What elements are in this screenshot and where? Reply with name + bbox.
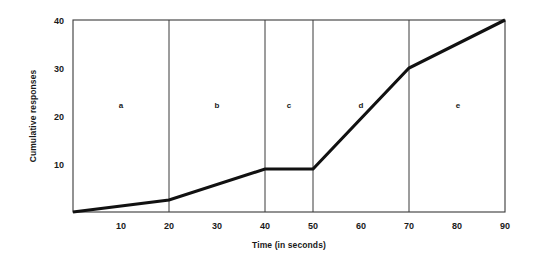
y-tick-label-40: 40 [54,16,64,26]
x-tick-label-70: 70 [404,221,414,231]
x-tick-label-80: 80 [452,221,462,231]
y-axis-title: Cumulative responses [28,69,38,162]
chart-canvas: 40 30 20 10 10 20 30 40 50 60 70 80 90 a… [0,0,539,259]
plot-frame [73,20,505,212]
x-tick-label-50: 50 [308,221,318,231]
region-label-e: e [456,101,461,110]
y-tick-label-30: 30 [54,64,64,74]
y-tick-label-20: 20 [54,112,64,122]
cumulative-response-chart: 40 30 20 10 10 20 30 40 50 60 70 80 90 a… [0,0,539,259]
x-tick-label-20: 20 [164,221,174,231]
cumulative-response-curve [73,20,505,212]
region-label-d: d [359,101,364,110]
y-tick-label-10: 10 [54,160,64,170]
region-label-a: a [119,101,124,110]
x-tick-label-60: 60 [356,221,366,231]
x-axis-title: Time (in seconds) [252,240,326,250]
region-label-c: c [287,101,292,110]
x-tick-label-40: 40 [260,221,270,231]
x-tick-label-10: 10 [116,221,126,231]
region-label-b: b [215,101,220,110]
x-tick-label-90: 90 [500,221,510,231]
x-tick-label-30: 30 [212,221,222,231]
